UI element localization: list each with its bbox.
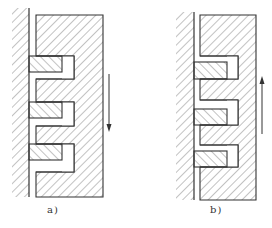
- piston-b-2: [194, 109, 227, 125]
- arrow-down-icon: [107, 74, 112, 132]
- panel-b: [176, 12, 265, 200]
- caption-a: a): [47, 204, 59, 215]
- diagram-canvas: [0, 0, 272, 228]
- piston-b-1: [194, 62, 227, 79]
- arrow-up-icon: [260, 76, 265, 134]
- piston-b-3: [194, 151, 227, 167]
- caption-b: b): [210, 204, 222, 215]
- piston-a-1: [29, 56, 62, 72]
- piston-a-3: [29, 144, 62, 160]
- left-wall-b: [176, 12, 194, 200]
- piston-a-2: [29, 102, 62, 118]
- panel-a: [12, 8, 112, 197]
- left-wall-a: [12, 8, 29, 197]
